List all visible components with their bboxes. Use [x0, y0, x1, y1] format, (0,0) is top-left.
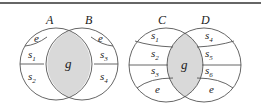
- set-label-b: B: [85, 13, 93, 27]
- region-label-d-1: s4: [205, 29, 213, 44]
- divider-d-bottom: [197, 78, 233, 88]
- region-label-b-2: s3: [100, 48, 108, 63]
- region-label-c-4: e: [155, 83, 160, 95]
- region-label-b-3: s4: [100, 70, 108, 85]
- region-label-c-2: s2: [151, 47, 159, 62]
- region-label-d-4: e: [209, 83, 214, 95]
- set-label-d: D: [200, 13, 210, 27]
- divider-d-top: [197, 41, 234, 47]
- region-label-a-1: e: [34, 32, 39, 44]
- region-label-c-3: s3: [151, 64, 159, 79]
- region-label-d-2: s5: [205, 47, 213, 62]
- intersection-label-ab: g: [65, 56, 72, 71]
- region-label-a-3: s2: [28, 70, 36, 85]
- region-label-b-1: e: [98, 32, 103, 44]
- region-label-a-2: s1: [28, 48, 36, 63]
- venn-diagram-cd: C D s1 s2 s3 e s4 s5 s6 e g: [129, 13, 241, 102]
- region-label-d-3: s6: [205, 64, 213, 79]
- venn-diagram-ab: A B e s1 s2 e s3 s4 g: [20, 13, 118, 100]
- set-label-a: A: [45, 13, 54, 27]
- venn-svg: A B e s1 s2 e s3 s4 g: [0, 0, 261, 109]
- set-label-c: C: [158, 13, 167, 27]
- venn-figure: A B e s1 s2 e s3 s4 g: [0, 0, 261, 109]
- region-label-c-1: s1: [151, 29, 159, 44]
- intersection-label-cd: g: [181, 57, 188, 72]
